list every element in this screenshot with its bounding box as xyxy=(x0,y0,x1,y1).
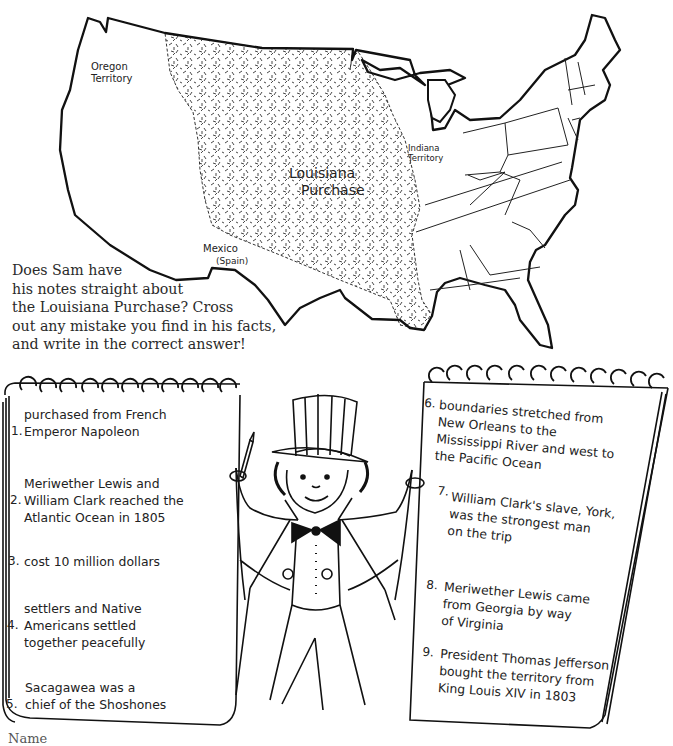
fact-6: 6. boundaries stretched from New Orleans… xyxy=(434,396,618,479)
fact-4: 4. settlers and Native Americans settled… xyxy=(24,600,145,651)
name-field-label: Name xyxy=(8,731,47,746)
left-notepad: 1. purchased from French Emperor Napoleo… xyxy=(0,380,245,725)
fact-7: 7. William Clark's slave, York, was the … xyxy=(447,488,617,556)
sam-character xyxy=(230,394,424,710)
indiana-territory-label: Indiana Territory xyxy=(408,143,443,163)
oregon-territory-label: Oregon Territory xyxy=(91,61,132,85)
instructions-text: Does Sam have his notes straight about t… xyxy=(12,261,312,354)
fact-1: 1. purchased from French Emperor Napoleo… xyxy=(24,406,167,440)
louisiana-purchase-label: Louisiana Purchase xyxy=(289,165,365,199)
fact-3: 3. cost 10 million dollars xyxy=(24,553,160,570)
right-notepad: 6. boundaries stretched from New Orleans… xyxy=(410,380,673,730)
fact-5: 5. Sacagawea was a chief of the Shoshone… xyxy=(25,679,166,713)
fact-8: 8. Meriwether Lewis came from Georgia by… xyxy=(441,578,591,642)
fact-2: 2. Meriwether Lewis and William Clark re… xyxy=(24,475,184,526)
fact-9: 9. President Thomas Jefferson bought the… xyxy=(437,645,609,708)
